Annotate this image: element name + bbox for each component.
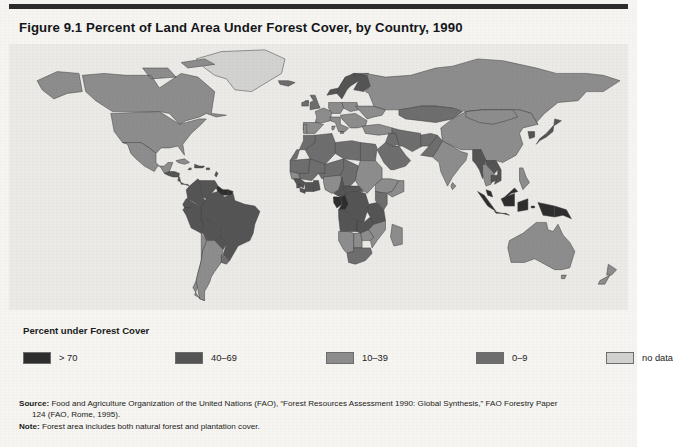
legend-item: > 70 — [23, 351, 77, 365]
figure-title: Figure 9.1 Percent of Land Area Under Fo… — [19, 20, 463, 35]
legend-swatch — [23, 352, 51, 364]
legend-item: 0–9 — [476, 351, 528, 365]
figure-notes: Source: Food and Agriculture Organizatio… — [19, 398, 641, 432]
country-suriname — [223, 190, 228, 196]
legend-label: 10–39 — [362, 353, 388, 363]
country-c-te-d-ivoire — [305, 183, 313, 192]
legend-swatch — [175, 352, 203, 364]
legend-label: no data — [642, 353, 673, 363]
source-label: Source: — [19, 399, 49, 408]
legend-label: 0–9 — [512, 353, 528, 363]
country-portugal — [303, 124, 306, 133]
country-mauritania — [290, 159, 310, 174]
legend-item: 10–39 — [326, 351, 388, 365]
legend-swatch — [606, 352, 634, 364]
legend-swatch — [326, 352, 354, 364]
map-svg — [9, 44, 628, 310]
country-egypt — [360, 143, 377, 161]
source-text: Food and Agriculture Organization of the… — [49, 399, 557, 408]
source-continuation: 124 (FAO, Rome, 1995). — [19, 409, 641, 420]
world-choropleth-map — [9, 44, 628, 310]
legend-item: 40–69 — [175, 351, 237, 365]
note-text: Forest area includes both natural forest… — [40, 422, 260, 431]
note-label: Note: — [19, 422, 40, 431]
legend-swatch — [476, 352, 504, 364]
legend-title: Percent under Forest Cover — [23, 325, 149, 336]
title-rule — [9, 4, 628, 9]
note-line: Note: Forest area includes both natural … — [19, 421, 641, 432]
country-sierra-leone — [297, 184, 300, 188]
legend-item: no data — [606, 351, 673, 365]
country-botswana — [354, 233, 362, 248]
legend-label: 40–69 — [211, 353, 237, 363]
country-germany — [329, 103, 344, 114]
source-line: Source: Food and Agriculture Organizatio… — [19, 398, 641, 409]
legend: > 7040–6910–390–9no data — [23, 351, 618, 365]
legend-label: > 70 — [59, 353, 77, 363]
